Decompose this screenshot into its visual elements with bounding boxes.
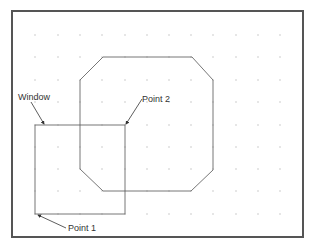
grid-dot [212, 190, 213, 191]
grid-dot [79, 34, 80, 35]
grid-dot [190, 101, 191, 102]
grid-dot [190, 124, 191, 125]
grid-dot [257, 146, 258, 147]
grid-dot [57, 190, 58, 191]
grid-dot [101, 34, 102, 35]
grid-dot [279, 124, 280, 125]
grid-dot [101, 101, 102, 102]
grid-dot [212, 213, 213, 214]
grid-dot [124, 101, 125, 102]
grid-dot [101, 79, 102, 80]
grid-dot [257, 101, 258, 102]
grid-dot [235, 101, 236, 102]
grid-dot [101, 168, 102, 169]
grid-dot [235, 146, 236, 147]
grid-dot [257, 124, 258, 125]
grid-dot [34, 34, 35, 35]
grid-dot [257, 56, 258, 57]
grid-dot [57, 101, 58, 102]
point1-label: Point 1 [68, 223, 96, 233]
grid-dot [101, 146, 102, 147]
grid-dot [34, 79, 35, 80]
grid-dot [146, 213, 147, 214]
grid-dot [212, 34, 213, 35]
grid-dot [235, 79, 236, 80]
grid-dot [190, 146, 191, 147]
grid-dot [235, 124, 236, 125]
grid-dot [257, 34, 258, 35]
grid-dot [146, 79, 147, 80]
grid-dot [57, 168, 58, 169]
grid-dot [124, 79, 125, 80]
grid-dot [34, 56, 35, 57]
grid-dot [279, 213, 280, 214]
grid-dot [57, 56, 58, 57]
grid-dot [279, 34, 280, 35]
drawing-frame [12, 11, 303, 237]
grid-dot [168, 124, 169, 125]
grid-dot [57, 79, 58, 80]
grid-dot [79, 190, 80, 191]
grid-dot [168, 168, 169, 169]
grid-dot [190, 79, 191, 80]
grid-dot [168, 79, 169, 80]
grid-dot [235, 168, 236, 169]
grid-dot [190, 168, 191, 169]
grid-dot [279, 168, 280, 169]
grid-dot [235, 34, 236, 35]
grid-dot [124, 34, 125, 35]
grid-dot [212, 56, 213, 57]
window-label: Window [18, 92, 51, 102]
grid-dot [279, 190, 280, 191]
grid-dot [190, 34, 191, 35]
grid-dot [146, 34, 147, 35]
grid-dot [168, 34, 169, 35]
grid-dot [146, 146, 147, 147]
grid-dot [146, 124, 147, 125]
grid-dot [257, 190, 258, 191]
grid-dot [190, 213, 191, 214]
grid-dot [257, 79, 258, 80]
diagram-canvas: Window Point 2 Point 1 [0, 0, 313, 251]
point2-label: Point 2 [142, 94, 170, 104]
grid-dot [235, 213, 236, 214]
grid-dot [279, 79, 280, 80]
grid-dot [235, 56, 236, 57]
grid-dot [168, 213, 169, 214]
grid-dot [146, 168, 147, 169]
grid-dot [279, 146, 280, 147]
grid-dot [168, 146, 169, 147]
grid-dot [279, 56, 280, 57]
grid-dot [257, 213, 258, 214]
grid-dot [235, 190, 236, 191]
grid-dot [57, 146, 58, 147]
grid-dot [57, 34, 58, 35]
grid-dot [257, 168, 258, 169]
grid-dot [79, 56, 80, 57]
grid-dot [279, 101, 280, 102]
